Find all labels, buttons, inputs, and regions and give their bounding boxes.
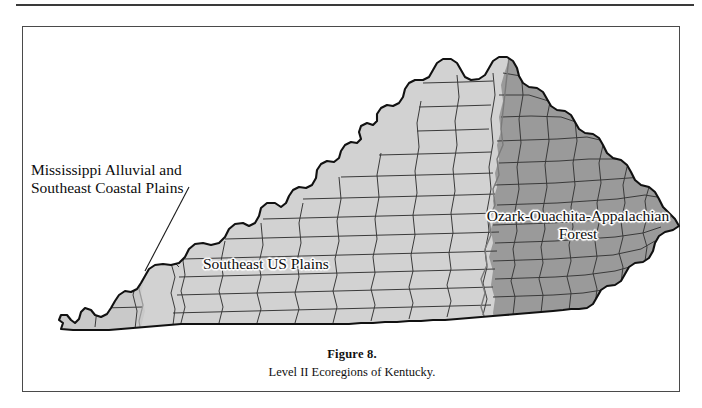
figure-caption-text: Level II Ecoregions of Kentucky. xyxy=(23,365,681,380)
figure-number: Figure 8. xyxy=(23,347,681,362)
page-top-rule xyxy=(16,4,694,6)
map-container: Mississippi Alluvial and Southeast Coast… xyxy=(23,27,681,345)
figure-page: Mississippi Alluvial and Southeast Coast… xyxy=(0,0,702,408)
figure-frame: Mississippi Alluvial and Southeast Coast… xyxy=(22,26,680,392)
kentucky-ecoregion-map xyxy=(23,27,681,345)
figure-caption: Figure 8. Level II Ecoregions of Kentuck… xyxy=(23,347,681,380)
